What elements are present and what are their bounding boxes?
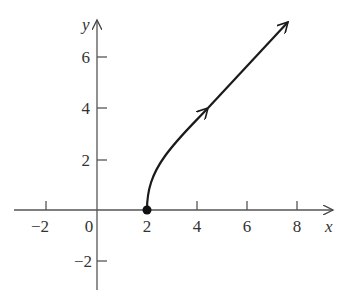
y-tick-label: −2 [74, 252, 92, 271]
y-tick-label: 4 [82, 99, 91, 118]
y-ticks [97, 57, 107, 261]
x-ticks [46, 201, 297, 210]
curve-segment-2 [208, 22, 288, 108]
x-tick-label: 6 [243, 217, 252, 236]
x-tick-label: 0 [85, 217, 94, 236]
y-axis-label: y [80, 15, 90, 34]
x-tick-label: 4 [193, 217, 202, 236]
y-tick-label: 6 [82, 48, 91, 67]
curve-segment-1 [147, 108, 208, 210]
x-tick-label: 2 [143, 217, 152, 236]
x-tick-label: −2 [31, 217, 49, 236]
x-tick-label: 8 [293, 217, 302, 236]
y-tick-label: 2 [82, 151, 91, 170]
graph-canvas: −2 0 2 4 6 8 6 4 2 −2 x y [0, 0, 339, 298]
x-axis-label: x [324, 217, 333, 236]
start-point [143, 206, 152, 215]
